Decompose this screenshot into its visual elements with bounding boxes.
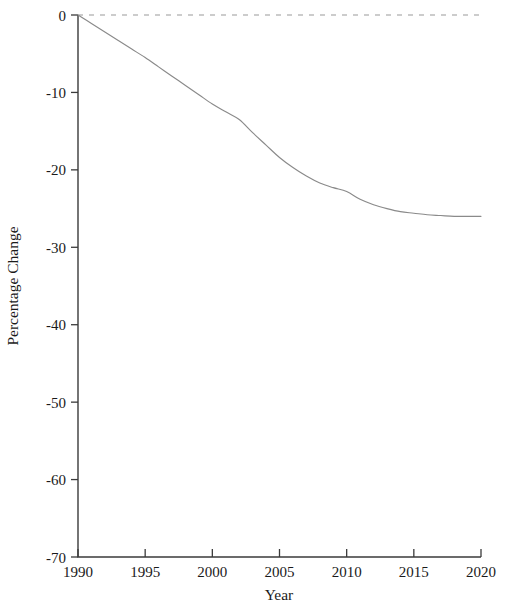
x-tick-label: 2020 bbox=[466, 564, 496, 580]
series-line-percentage-change bbox=[78, 15, 481, 216]
y-axis-title: Percentage Change bbox=[4, 226, 21, 345]
y-tick-label: 0 bbox=[59, 8, 67, 24]
y-tick-label: -10 bbox=[46, 85, 66, 101]
chart-axes bbox=[78, 15, 481, 557]
line-chart: 0-10-20-30-40-50-60-70 19901995200020052… bbox=[0, 0, 511, 615]
x-tick-label: 2010 bbox=[332, 564, 362, 580]
x-tick-label: 1995 bbox=[130, 564, 160, 580]
x-tick-label: 2005 bbox=[265, 564, 295, 580]
y-tick-label: -60 bbox=[46, 472, 66, 488]
x-axis-title: Year bbox=[265, 586, 294, 603]
y-tick-label: -20 bbox=[46, 162, 66, 178]
y-tick-label: -40 bbox=[46, 317, 66, 333]
x-tick-label: 2015 bbox=[399, 564, 429, 580]
x-tick-label: 1990 bbox=[63, 564, 93, 580]
x-tick-label: 2000 bbox=[197, 564, 227, 580]
y-tick-label: -30 bbox=[46, 240, 66, 256]
y-axis-ticks: 0-10-20-30-40-50-60-70 bbox=[46, 8, 78, 566]
x-axis-ticks: 1990199520002005201020152020 bbox=[63, 549, 496, 580]
y-tick-label: -50 bbox=[46, 395, 66, 411]
data-series-group bbox=[78, 15, 481, 216]
chart-container: 0-10-20-30-40-50-60-70 19901995200020052… bbox=[0, 0, 511, 615]
axis-lines bbox=[78, 15, 481, 557]
